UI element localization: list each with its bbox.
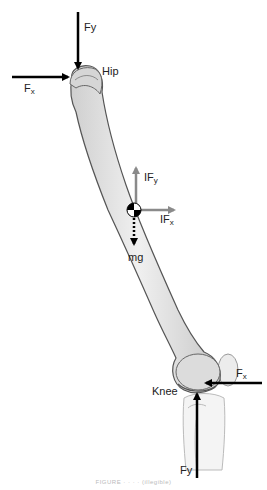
diagram-canvas (0, 0, 267, 490)
hip-fx-label: Fx (24, 83, 35, 96)
femur-free-body-diagram: Fy Fx Hip IFy IFx mg Fx Knee Fy FIGURE ·… (0, 0, 267, 490)
femur-bone (70, 66, 220, 393)
hip-label: Hip (102, 66, 119, 77)
hip-fy-label: Fy (84, 22, 96, 33)
mg-label: mg (128, 252, 143, 263)
knee-fy-label: Fy (180, 465, 192, 476)
knee-label: Knee (152, 386, 178, 397)
ifx-label: IFx (160, 214, 174, 227)
center-of-mass-icon (127, 203, 141, 217)
ify-label: IFy (144, 172, 158, 185)
knee-fx-label: Fx (236, 368, 247, 381)
figure-caption: FIGURE · · · · (illegible) (0, 479, 267, 485)
